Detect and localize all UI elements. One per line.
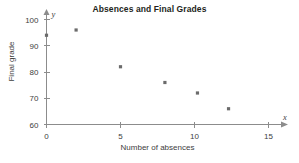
scatter-chart: Absences and Final Grades Final grade Nu…: [0, 0, 299, 163]
data-point: [196, 91, 199, 94]
data-point: [119, 65, 122, 68]
data-point: [227, 107, 230, 110]
y-axis-symbol: y: [51, 9, 56, 19]
plot-area: 05101560708090100 yx: [0, 0, 299, 163]
data-points: [45, 28, 230, 110]
data-point: [75, 28, 78, 31]
data-point: [163, 81, 166, 84]
x-tick-label: 15: [264, 132, 273, 141]
axes: [44, 9, 289, 128]
x-axis-symbol: x: [282, 112, 287, 122]
tick-marks: [44, 20, 269, 128]
y-tick-label: 60: [30, 121, 39, 130]
x-tick-label: 0: [44, 132, 49, 141]
y-tick-label: 70: [30, 94, 39, 103]
tick-labels: 05101560708090100: [25, 16, 273, 141]
y-tick-label: 80: [30, 68, 39, 77]
x-tick-label: 5: [118, 132, 123, 141]
axis-variable-labels: yx: [51, 9, 288, 122]
y-tick-label: 90: [30, 42, 39, 51]
y-axis-arrow: [44, 9, 50, 15]
x-tick-label: 10: [190, 132, 199, 141]
data-point: [45, 34, 48, 37]
x-axis-arrow: [281, 122, 288, 128]
y-tick-label: 100: [25, 16, 39, 25]
